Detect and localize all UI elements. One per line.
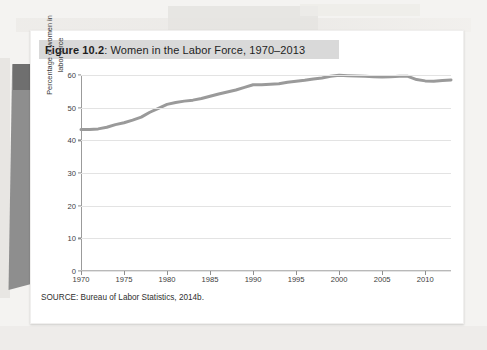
figure-card: Figure 10.2: Women in the Labor Force, 1… <box>30 30 464 324</box>
y-gridline <box>81 206 451 207</box>
scan-artifact-top-block <box>168 6 318 32</box>
figure-title-main: Women in the Labor Force, 1970–2013 <box>111 44 306 56</box>
x-tick-label: 2005 <box>374 275 391 284</box>
x-tick-label: 1985 <box>202 275 219 284</box>
x-tick-label: 2000 <box>331 275 348 284</box>
source-note: SOURCE: Bureau of Labor Statistics, 2014… <box>41 293 204 302</box>
figure-title: Figure 10.2: Women in the Labor Force, 1… <box>39 44 305 56</box>
y-gridline <box>81 108 451 109</box>
y-tick-mark <box>78 172 82 173</box>
y-gridline <box>81 75 451 76</box>
y-gridline <box>81 173 451 174</box>
x-tick-label: 1990 <box>245 275 262 284</box>
y-axis-label: Percentage of women in labor force <box>45 0 66 115</box>
figure-title-bar: Figure 10.2: Women in the Labor Force, 1… <box>39 40 339 59</box>
chart-plot-wrapper: Percentage of women in labor force 01020… <box>39 67 455 307</box>
y-tick-mark <box>78 140 82 141</box>
y-tick-mark <box>78 107 82 108</box>
y-tick-label: 30 <box>68 169 76 178</box>
y-gridline <box>81 140 451 141</box>
x-tick-label: 1980 <box>159 275 176 284</box>
x-tick-label: 1975 <box>116 275 133 284</box>
x-tick-label: 1995 <box>288 275 305 284</box>
y-tick-label: 60 <box>68 71 76 80</box>
y-tick-label: 20 <box>68 201 76 210</box>
y-tick-label: 10 <box>68 234 76 243</box>
y-tick-label: 50 <box>68 103 76 112</box>
y-gridline <box>81 271 451 272</box>
y-tick-mark <box>78 238 82 239</box>
scan-artifact-bottom <box>0 326 487 350</box>
scan-artifact-top-faint <box>300 4 420 16</box>
plot-area: 0102030405060197019751980198519901995200… <box>81 75 451 271</box>
y-tick-label: 40 <box>68 136 76 145</box>
y-tick-mark <box>78 205 82 206</box>
y-gridline <box>81 238 451 239</box>
x-tick-label: 2010 <box>417 275 434 284</box>
y-tick-mark <box>78 74 82 75</box>
scan-artifact-left-edge <box>0 58 10 298</box>
x-tick-label: 1970 <box>73 275 90 284</box>
